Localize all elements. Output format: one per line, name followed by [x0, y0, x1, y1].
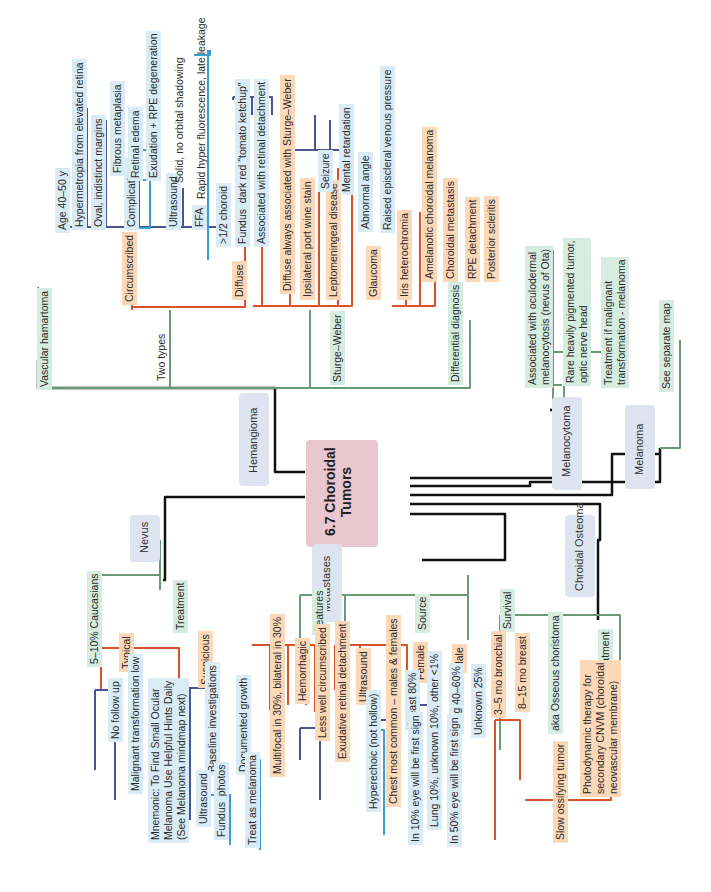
dd-item-amelanotic: Amelanotic choroidal melanoma	[422, 127, 437, 282]
melanocytoma-ota: Associated with oculodermal melanocytosi…	[525, 246, 553, 388]
ultrasound-chest: Chest most common – males & females	[386, 615, 401, 807]
dd-item-metastasis: Choroidal metastasis	[443, 178, 458, 282]
osteoma-pdt: Photodynamic therapy for secondary CNVM …	[580, 660, 621, 797]
survival-bronchial: 3–5 mo bronchial	[491, 631, 506, 718]
center-title: 6.7 Choroidal Tumors	[322, 448, 354, 536]
label-vascular-hamartoma: Vascular hamartoma	[37, 288, 52, 390]
node-osteoma: Chroidal Osteoma	[565, 515, 595, 597]
lung-first-sign: In 50% eye will be first sign	[447, 714, 462, 847]
metastases-source: Source	[415, 594, 430, 633]
mind-map: 6.7 Choroidal Tumors Hemangioma Nevus Me…	[0, 0, 711, 892]
lepto-seizure: Seizure	[318, 150, 333, 192]
diffuse-item-fundus: Fundus dark red "tomato ketchup"	[235, 79, 250, 247]
node-melanocytoma: Melanocytoma	[552, 397, 582, 490]
circ-item-ffa: FFA	[192, 205, 207, 230]
node-nevus: Nevus	[130, 515, 160, 562]
metastases-survival: Survival	[500, 589, 515, 632]
ultrasound-finding: Solid, no orbital shadowing	[172, 55, 187, 187]
nevus-treatment: Treatment	[173, 580, 188, 633]
circ-item-age: Age 40–50 y	[55, 168, 70, 233]
typical-no-follow: No follow up	[108, 678, 123, 742]
female-lung: Lung 10%, unknown 10%, other <1%	[427, 651, 442, 830]
complication-edema: Retinal edema	[128, 107, 143, 181]
melanocytoma-rare: Rare heavily pigmented tumor, optic nerv…	[563, 238, 591, 386]
osteoma-slow: Slow ossifying tumor	[553, 741, 568, 843]
male-unknown: Unknown 25%	[471, 664, 486, 738]
feature-multifocal: Multifocal in 30%, bilateral in 30%	[270, 614, 285, 777]
melanocytoma-treatment: Treatment if malignant transformation - …	[601, 257, 629, 388]
node-hemangioma: Hemangioma	[239, 393, 269, 486]
feature-circumscribed: Less well circumscribed	[315, 624, 330, 741]
diffuse-item-detachment: Associated with retinal detachment	[254, 79, 269, 247]
node-melanoma: Melanoma	[625, 405, 655, 489]
lepto-retardation: Mental retardation	[339, 104, 354, 195]
growth-treat: Treat as melanoma	[245, 752, 260, 848]
survival-breast: 8–15 mo breast	[515, 633, 530, 712]
melanoma-see-map: See separate map	[659, 300, 674, 392]
sw-item-iris: Iris heterochromia	[397, 210, 412, 300]
nevus-prevalence: 5–10% Caucasians	[87, 571, 102, 667]
label-two-types: Two types	[154, 331, 169, 384]
complication-exudation: Exudation + RPE degeneration	[146, 31, 161, 181]
ultrasound-hyperechoic: Hyperechoic (not hollow)	[366, 690, 381, 812]
glaucoma-angle: Abnormal angle	[358, 152, 373, 232]
glaucoma-episcleral: Raised episcleral venous pressure	[380, 67, 395, 234]
sw-item-port-wine: Ipsilateral port wine stain	[300, 178, 315, 300]
sw-item-glaucoma: Glaucoma	[366, 246, 381, 300]
dd-item-scleritis: Posterior scleritis	[484, 196, 499, 282]
feature-exudative: Exudative retinal detachment	[335, 621, 350, 762]
baseline-fundus: Fundus photos	[214, 762, 229, 840]
label-circumscribed: Circumscribed	[122, 232, 137, 305]
suspicious-baseline: Baseline investigations	[205, 662, 220, 775]
label-differential: Differential diagnosis	[448, 282, 463, 385]
circ-item-hypermetropia: Hypermetropia from elevated retina	[72, 59, 87, 230]
label-diffuse: Diffuse	[232, 262, 247, 301]
circ-item-oval: Oval, indistinct margins	[91, 115, 106, 230]
osteoma-aka: aka Osseous choristoma	[548, 612, 563, 734]
baseline-ultrasound: Ultrasound	[196, 770, 211, 827]
complication-fibrous: Fibrous metaplasia	[110, 81, 125, 176]
diffuse-item-half-choroid: >1/2 choroid	[216, 183, 231, 247]
center-node: 6.7 Choroidal Tumors	[306, 440, 378, 547]
typical-malignant-low: Malignant transformation low	[128, 654, 143, 794]
sw-item-diffuse: Diffuse always associated with Sturge–We…	[280, 75, 295, 294]
ffa-finding: Rapid hyper fluorescence, late leakage	[194, 14, 209, 202]
sw-item-leptomeningeal: Leptomeningeal disease	[326, 180, 341, 300]
dd-item-rpe: RPE detachment	[465, 197, 480, 282]
breast-first-sign: In 10% eye will be first sign	[408, 712, 423, 845]
label-sturge-weber: Sturge–Weber	[330, 311, 345, 385]
nevus-mnemonic: Mnemonic: To Find Small Ocular Melanoma …	[148, 678, 189, 843]
feature-hemorrhagic: Hemorrhagic	[295, 638, 310, 704]
